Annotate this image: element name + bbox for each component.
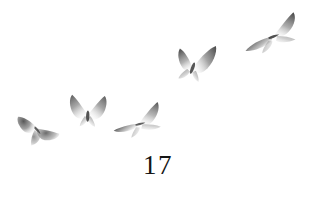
butterfly-lower-left <box>11 101 66 155</box>
butterfly-upper-right <box>235 5 307 64</box>
butterfly-left-center-icon <box>63 88 112 130</box>
butterfly-left-center <box>63 88 112 130</box>
butterfly-upper-center <box>166 34 223 89</box>
page-number: 17 <box>0 152 316 179</box>
book-page: 17 <box>0 0 316 200</box>
butterfly-upper-center-icon <box>166 34 223 89</box>
butterfly-center-low <box>106 96 170 148</box>
butterfly-upper-right-icon <box>235 5 307 64</box>
butterfly-lower-left-icon <box>11 101 66 155</box>
butterfly-center-low-icon <box>106 96 170 148</box>
